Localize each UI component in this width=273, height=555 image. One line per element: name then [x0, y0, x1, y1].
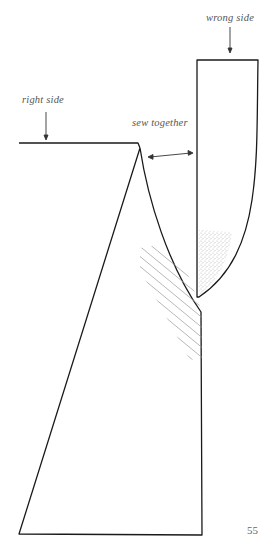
- right-side-arrow: [44, 112, 48, 140]
- sewing-diagram: [0, 0, 273, 555]
- sew-together-arrow: [148, 151, 193, 160]
- right-side-label: right side: [22, 94, 64, 105]
- left-panel-outline: [19, 143, 202, 535]
- sew-together-label: sew together: [132, 117, 188, 128]
- page-number: 55: [247, 524, 258, 536]
- stipple-region: [199, 230, 232, 296]
- hatch-lines: [120, 220, 205, 370]
- wrong-side-arrow: [228, 27, 232, 53]
- wrong-side-label: wrong side: [206, 12, 254, 23]
